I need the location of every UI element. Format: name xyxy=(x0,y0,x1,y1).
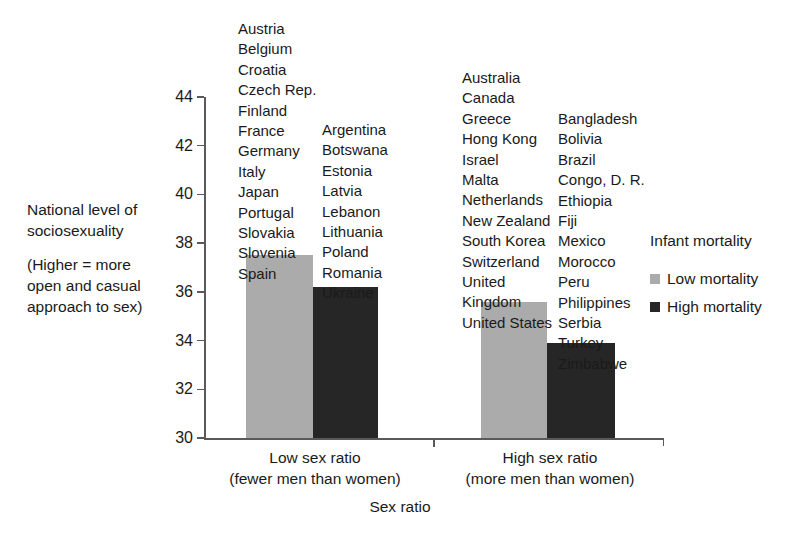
country-name: Japan xyxy=(238,182,316,202)
country-name: Slovakia xyxy=(238,223,316,243)
x-axis-title: Sex ratio xyxy=(310,498,490,516)
country-name: Philippines xyxy=(558,293,645,313)
legend-item[interactable]: Low mortality xyxy=(650,265,798,293)
country-name: Estonia xyxy=(322,161,388,181)
y-axis-note-line-1: (Higher = more xyxy=(27,254,177,275)
legend-items: Low mortalityHigh mortality xyxy=(650,265,798,321)
y-axis-tick xyxy=(197,242,204,244)
country-name: Turkey xyxy=(558,333,645,353)
legend-title: Infant mortality xyxy=(650,231,798,250)
country-name: Czech Rep. xyxy=(238,80,316,100)
country-name: Poland xyxy=(322,242,388,262)
y-axis-tick-label: 30 xyxy=(160,430,193,446)
country-name: Ukraine xyxy=(322,283,388,303)
country-name: Bolivia xyxy=(558,129,645,149)
country-name: Canada xyxy=(462,88,558,108)
country-list-high-ratio-low-mortality: AustraliaCanadaGreeceHong KongIsraelMalt… xyxy=(462,68,558,333)
country-name: Switzerland xyxy=(462,252,558,272)
legend: Infant mortality Low mortalityHigh morta… xyxy=(650,231,798,321)
country-name: United States xyxy=(462,313,558,333)
country-name: United Kingdom xyxy=(462,272,558,313)
x-axis-group-label-high-sex-ratio: High sex ratio (more men than women) xyxy=(430,447,670,489)
country-name: Congo, D. R. xyxy=(558,170,645,190)
country-name: Lebanon xyxy=(322,202,388,222)
country-name: Austria xyxy=(238,19,316,39)
country-name: Netherlands xyxy=(462,190,558,210)
y-axis-tick-label: 32 xyxy=(160,381,193,397)
y-axis-tick xyxy=(197,389,204,391)
y-axis-tick-label: 42 xyxy=(160,138,193,154)
legend-item-label: High mortality xyxy=(667,299,762,315)
legend-item[interactable]: High mortality xyxy=(650,293,798,321)
country-name: Mexico xyxy=(558,231,645,251)
country-name: Argentina xyxy=(322,120,388,140)
country-name: Peru xyxy=(558,272,645,292)
country-name: Belgium xyxy=(238,39,316,59)
country-name: Croatia xyxy=(238,60,316,80)
x-group-0-line-2: (fewer men than women) xyxy=(195,468,435,489)
country-name: Australia xyxy=(462,68,558,88)
y-axis-tick xyxy=(197,437,204,439)
country-name: Lithuania xyxy=(322,222,388,242)
y-axis-title-spacer xyxy=(27,241,177,254)
x-group-1-line-2: (more men than women) xyxy=(430,468,670,489)
country-name: Serbia xyxy=(558,313,645,333)
y-axis-tick-label: 36 xyxy=(160,284,193,300)
legend-swatch-icon xyxy=(650,274,660,284)
bar-low-sex-ratio-high-mortality xyxy=(313,287,378,438)
country-name: Botswana xyxy=(322,140,388,160)
country-list-high-ratio-high-mortality: BangladeshBoliviaBrazilCongo, D. R.Ethio… xyxy=(558,109,645,374)
y-axis-title: National level of sociosexuality (Higher… xyxy=(27,199,177,317)
country-name: Israel xyxy=(462,150,558,170)
country-name: France xyxy=(238,121,316,141)
y-axis-tick xyxy=(197,340,204,342)
country-name: Fiji xyxy=(558,211,645,231)
y-axis-tick xyxy=(197,291,204,293)
sociosexuality-bar-chart: National level of sociosexuality (Higher… xyxy=(0,0,799,543)
country-name: Zimbabwe xyxy=(558,354,645,374)
country-name: Hong Kong xyxy=(462,129,558,149)
country-name: New Zealand xyxy=(462,211,558,231)
country-name: Slovenia xyxy=(238,243,316,263)
country-name: Bangladesh xyxy=(558,109,645,129)
legend-item-label: Low mortality xyxy=(667,271,758,287)
country-name: Romania xyxy=(322,263,388,283)
country-name: Morocco xyxy=(558,252,645,272)
y-axis-tick-label: 38 xyxy=(160,235,193,251)
x-group-1-line-1: High sex ratio xyxy=(430,447,670,468)
x-axis-mid-tick xyxy=(433,438,435,447)
country-name: Spain xyxy=(238,264,316,284)
x-axis-group-label-low-sex-ratio: Low sex ratio (fewer men than women) xyxy=(195,447,435,489)
y-axis-note-line-3: approach to sex) xyxy=(27,296,177,317)
country-list-low-ratio-high-mortality: ArgentinaBotswanaEstoniaLatviaLebanonLit… xyxy=(322,120,388,304)
country-name: Finland xyxy=(238,101,316,121)
country-name: Germany xyxy=(238,141,316,161)
legend-swatch-icon xyxy=(650,302,660,312)
country-name: Italy xyxy=(238,162,316,182)
x-group-0-line-1: Low sex ratio xyxy=(195,447,435,468)
y-axis-tick xyxy=(197,194,204,196)
y-axis-tick-label: 40 xyxy=(160,186,193,202)
country-name: Brazil xyxy=(558,150,645,170)
country-name: Latvia xyxy=(322,181,388,201)
y-axis-tick-label: 44 xyxy=(160,89,193,105)
y-axis-title-line-1: National level of xyxy=(27,199,177,220)
y-axis-tick xyxy=(197,145,204,147)
country-name: Malta xyxy=(462,170,558,190)
x-axis-end-tick xyxy=(663,438,665,446)
y-axis-note-line-2: open and casual xyxy=(27,275,177,296)
country-name: Ethiopia xyxy=(558,191,645,211)
country-list-low-ratio-low-mortality: AustriaBelgiumCroatiaCzech Rep.FinlandFr… xyxy=(238,19,316,284)
y-axis-title-line-2: sociosexuality xyxy=(27,220,177,241)
country-name: Portugal xyxy=(238,203,316,223)
country-name: Greece xyxy=(462,109,558,129)
country-name: South Korea xyxy=(462,231,558,251)
y-axis-tick xyxy=(197,96,204,98)
y-axis-tick-label: 34 xyxy=(160,333,193,349)
